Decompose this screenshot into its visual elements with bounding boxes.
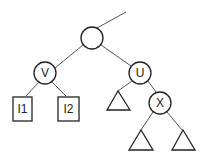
x-label: X [156,96,164,110]
v-node: V [34,62,56,84]
x-node: X [149,92,171,114]
edge-x-left [141,112,153,130]
edge-u-x [148,81,156,92]
u-left-subtree-triangle [107,91,130,110]
root-circle [81,27,103,49]
v-label: V [41,66,49,80]
edge-x-right [167,112,182,130]
edge-root-u [101,45,131,66]
i2-label: I2 [63,102,73,116]
x-left-subtree-triangle [129,130,153,150]
x-right-subtree-triangle [172,130,195,150]
i2-leaf: I2 [58,97,79,121]
i1-label: I1 [17,102,27,116]
edge-u-left [118,81,132,91]
i1-leaf: I1 [13,97,32,121]
edge-v-i2 [52,82,66,96]
u-label: U [136,66,145,80]
edge-v-i1 [26,82,39,96]
root-node [81,27,103,49]
u-node: U [129,62,151,84]
edge-parent-root [97,12,126,28]
tree-diagram: V U I1 I2 X [0,0,208,157]
edge-root-v [55,45,83,68]
